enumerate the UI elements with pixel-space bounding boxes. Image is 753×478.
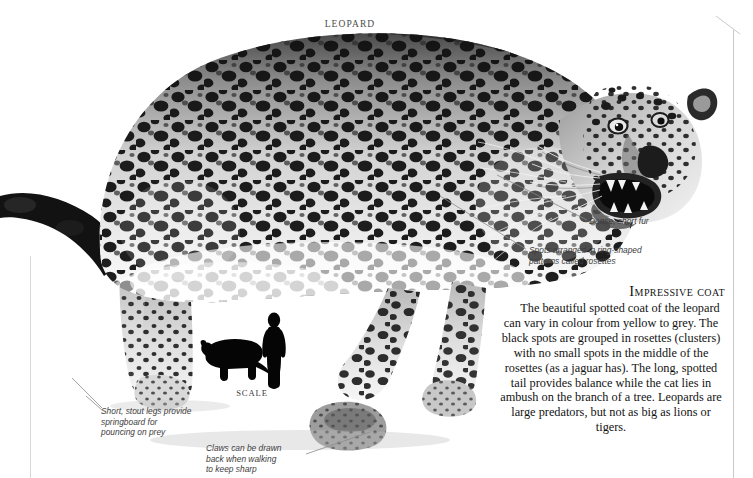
page-title: LEOPARD	[0, 19, 700, 29]
leopard-eye-left	[609, 119, 628, 134]
scale-label: SCALE	[198, 388, 306, 398]
human-silhouette	[262, 313, 286, 389]
article-body: The beautiful spotted coat of the leopar…	[497, 301, 725, 435]
leopard-front-leg-near	[310, 288, 420, 451]
annotation-dense-short-fur: Dense, short fur	[589, 216, 649, 227]
leopard-encyclopedia-page: LEOPARD Dense, short fur Spots arranged …	[0, 0, 753, 478]
article-body-text: The beautiful spotted coat of the leopar…	[500, 301, 722, 434]
annotation-claws: Claws can be drawn back when walking to …	[206, 443, 281, 475]
article-column: Impressive coat The beautiful spotted co…	[497, 283, 725, 435]
left-margin-rule	[30, 256, 31, 478]
right-margin-rule	[733, 30, 734, 478]
article-heading: Impressive coat	[497, 283, 725, 300]
annotation-short-stout-legs: Short, stout legs provide springboard fo…	[101, 406, 191, 438]
leopard-eye-right	[652, 113, 669, 127]
annotation-rosettes: Spots arranged in ring-shaped patterns c…	[529, 245, 642, 266]
